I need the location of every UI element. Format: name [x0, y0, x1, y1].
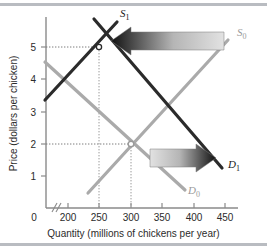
curve-label-s1: S1: [120, 7, 130, 22]
demand-curve-d0: [45, 62, 185, 190]
curve-label-d1: D1: [228, 158, 240, 173]
supply-curve-s0: [88, 40, 228, 193]
x-tick-label-200: 200: [60, 212, 77, 223]
x-tick-label-450: 450: [217, 212, 234, 223]
curve-label-s1-subscript: 1: [126, 13, 130, 22]
curve-label-d0: D0: [188, 184, 200, 199]
x-axis-title: Quantity (millions of chickens per year): [0, 228, 267, 239]
chart-figure: 1 2 3 4 5 0 200 250 300 350 400 450 Pric…: [0, 0, 267, 251]
equilibrium-marker-original: [128, 141, 134, 147]
supply-shift-arrow-icon: [111, 27, 224, 55]
equilibrium-marker-new: [96, 44, 101, 49]
y-axis-title: Price (dollars per chicken): [8, 39, 19, 189]
x-axis-ticks: [68, 203, 225, 208]
curve-label-d1-subscript: 1: [236, 164, 240, 173]
y-axis-ticks: [41, 47, 46, 176]
y-tick-label-1: 1: [22, 171, 36, 182]
curve-label-d0-letter: D: [188, 184, 196, 196]
curve-label-s0-subscript: 0: [243, 32, 247, 41]
x-tick-label-0: 0: [31, 212, 37, 223]
y-tick-label-3: 3: [22, 107, 36, 118]
curve-label-s0: S0: [237, 26, 247, 41]
curve-label-d1-letter: D: [228, 158, 236, 170]
x-tick-label-300: 300: [123, 212, 140, 223]
curve-label-d0-subscript: 0: [196, 190, 200, 199]
y-tick-label-2: 2: [22, 139, 36, 150]
x-tick-label-400: 400: [186, 212, 203, 223]
y-tick-label-5: 5: [22, 42, 36, 53]
y-tick-label-4: 4: [22, 74, 36, 85]
x-tick-label-250: 250: [91, 212, 108, 223]
x-tick-label-350: 350: [154, 212, 171, 223]
